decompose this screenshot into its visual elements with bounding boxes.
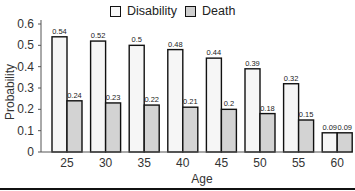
bar-value-label: 0.24 [67,91,82,100]
x-tick-label: 50 [253,156,267,170]
bar-disability [206,58,221,152]
divider [0,188,355,190]
x-tick-label: 45 [215,156,229,170]
bar-value-label: 0.15 [299,110,314,119]
bar-value-label: 0.32 [284,74,299,83]
y-tick-label: 0.5 [17,38,34,52]
bar-value-label: 0.23 [106,93,121,102]
bar-value-label: 0.52 [91,31,106,40]
y-tick-label: 0.4 [17,60,34,74]
x-axis-label: Age [191,172,213,186]
bar-value-label: 0.09 [337,123,352,132]
bar-death [260,114,275,152]
bar-death [221,109,236,152]
bar-value-label: 0.22 [144,95,159,104]
bar-value-label: 0.5 [131,35,141,44]
bar-death [183,107,198,152]
y-tick-label: 0 [27,145,34,159]
x-tick-label: 30 [99,156,113,170]
bar-disability [168,50,183,152]
bar-disability [52,37,67,152]
y-tick-label: 0.2 [17,102,34,116]
bar-value-label: 0.21 [183,97,198,106]
y-tick-label: 0.6 [17,17,34,31]
x-tick-label: 40 [176,156,190,170]
x-tick-label: 35 [138,156,152,170]
bar-death [106,103,121,152]
bar-value-label: 0.44 [207,48,222,57]
bar-death [337,133,352,152]
x-tick-label: 55 [292,156,306,170]
bars: 0.540.240.520.230.50.220.480.210.440.20.… [52,27,352,152]
bar-chart: 00.10.20.30.40.50.6 0.540.240.520.230.50… [0,0,355,191]
bar-death [67,101,82,152]
bar-value-label: 0.09 [322,123,337,132]
bar-disability [245,69,260,152]
x-tick-label: 60 [331,156,345,170]
x-tick-label: 25 [60,156,74,170]
bar-value-label: 0.39 [245,59,260,68]
x-axis: 2530354045505560 [41,152,350,170]
y-tick-label: 0.1 [17,124,34,138]
bar-value-label: 0.18 [260,104,275,113]
bar-death [299,120,314,152]
y-axis-label: Probability [3,64,17,120]
bar-disability [91,41,106,152]
bar-value-label: 0.2 [224,99,234,108]
y-axis: 00.10.20.30.40.50.6 [17,17,41,159]
bar-value-label: 0.48 [168,40,183,49]
bar-disability [322,133,337,152]
bar-disability [129,45,144,152]
bar-value-label: 0.54 [52,27,67,36]
bar-death [144,105,159,152]
bar-disability [284,84,299,152]
y-tick-label: 0.3 [17,81,34,95]
